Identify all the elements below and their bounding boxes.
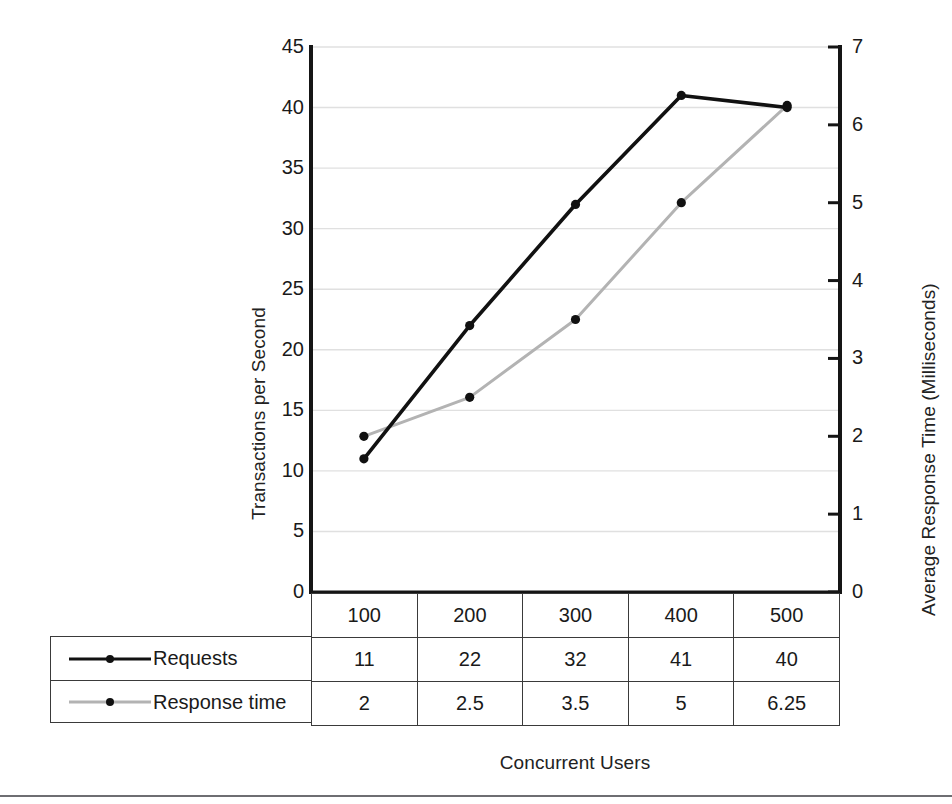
data-point-marker [359, 454, 368, 463]
data-point-marker [783, 103, 792, 112]
legend: RequestsResponse time [50, 636, 311, 723]
gridlines [311, 47, 840, 531]
table-row: 22.53.556.25 [312, 682, 840, 726]
data-point-marker [359, 432, 368, 441]
legend-label: Requests [153, 647, 238, 670]
data-point-marker [677, 198, 686, 207]
data-point-marker [465, 393, 474, 402]
legend-item: Response time [51, 680, 311, 723]
series-line [364, 105, 787, 436]
table-cell: 3.5 [523, 682, 629, 726]
table-cell: 32 [523, 638, 629, 682]
table-cell: 500 [734, 594, 840, 638]
data-point-marker [677, 91, 686, 100]
legend-key-icon [67, 695, 153, 709]
table-cell: 40 [734, 638, 840, 682]
series-layer [359, 91, 791, 464]
data-point-marker [465, 321, 474, 330]
data-point-marker [571, 200, 580, 209]
footer-divider [0, 795, 952, 797]
table-cell: 22 [417, 638, 523, 682]
table-cell: 200 [417, 594, 523, 638]
table-header-row: 100200300400500 [312, 594, 840, 638]
table-cell: 6.25 [734, 682, 840, 726]
table-cell: 100 [312, 594, 418, 638]
table-cell: 11 [312, 638, 418, 682]
table-cell: 5 [628, 682, 734, 726]
legend-item: Requests [51, 637, 311, 680]
table-cell: 2.5 [417, 682, 523, 726]
legend-label: Response time [153, 691, 286, 714]
data-point-marker [571, 315, 580, 324]
table-cell: 400 [628, 594, 734, 638]
table-cell: 41 [628, 638, 734, 682]
table-cell: 300 [523, 594, 629, 638]
series-line [364, 95, 787, 458]
chart-figure: Transactions per Second Average Response… [0, 0, 952, 804]
data-table: 100200300400500112232414022.53.556.25 [311, 593, 840, 726]
table-row: 1122324140 [312, 638, 840, 682]
table-cell: 2 [312, 682, 418, 726]
legend-key-icon [67, 652, 153, 666]
